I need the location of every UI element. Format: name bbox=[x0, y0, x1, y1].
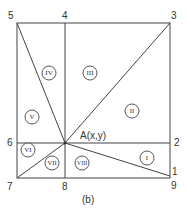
corner-label-7: 7 bbox=[7, 181, 13, 192]
region-VIII: VIII bbox=[75, 156, 89, 170]
region-I: I bbox=[140, 151, 154, 165]
corner-label-6: 6 bbox=[7, 137, 13, 148]
region-IV: IV bbox=[42, 66, 56, 80]
region-VI: VI bbox=[21, 143, 35, 157]
region-III: III bbox=[83, 66, 97, 80]
corner-label-9: 9 bbox=[171, 180, 177, 191]
region-V: V bbox=[25, 110, 39, 124]
corner-labels: 1 2 3 4 5 6 7 8 9 bbox=[7, 10, 180, 192]
svg-text:VIII: VIII bbox=[77, 160, 87, 166]
svg-text:V: V bbox=[29, 113, 34, 121]
corner-label-3: 3 bbox=[171, 10, 177, 21]
point-A-label: A(x,y) bbox=[80, 130, 106, 141]
corner-label-1: 1 bbox=[172, 166, 178, 177]
line-5-A bbox=[17, 23, 65, 143]
svg-text:II: II bbox=[130, 107, 135, 115]
corner-label-2: 2 bbox=[174, 137, 180, 148]
region-VII: VII bbox=[45, 156, 59, 170]
svg-text:III: III bbox=[87, 69, 95, 77]
corner-label-4: 4 bbox=[62, 10, 68, 21]
caption: (b) bbox=[82, 194, 94, 205]
corner-label-8: 8 bbox=[62, 181, 68, 192]
corner-label-5: 5 bbox=[8, 10, 14, 21]
svg-text:VI: VI bbox=[24, 146, 32, 154]
svg-text:IV: IV bbox=[45, 69, 52, 77]
diagram-canvas: A(x,y) (b) 1 2 3 4 5 6 7 8 9 I II III IV bbox=[0, 0, 188, 210]
line-A-3 bbox=[65, 23, 170, 143]
point-A bbox=[64, 142, 67, 145]
region-II: II bbox=[125, 104, 139, 118]
svg-text:VII: VII bbox=[47, 159, 57, 167]
